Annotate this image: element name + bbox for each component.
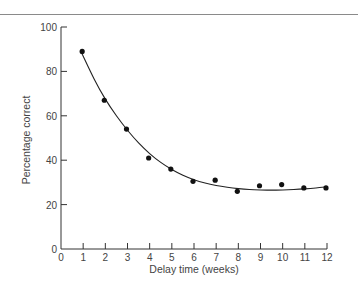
x-tick-label: 5 xyxy=(169,252,175,263)
x-tick-label: 12 xyxy=(321,252,333,263)
data-points xyxy=(80,49,329,194)
forgetting-curve-chart: 0123456789101112 020406080100 Delay time… xyxy=(0,0,361,290)
x-tick-label: 7 xyxy=(213,252,219,263)
y-tick-label: 100 xyxy=(40,22,57,33)
x-tick-label: 3 xyxy=(125,252,131,263)
data-point xyxy=(257,183,262,188)
data-point xyxy=(301,185,306,190)
fitted-curve xyxy=(81,51,327,190)
y-tick-label: 20 xyxy=(46,200,58,211)
data-point xyxy=(323,185,328,190)
axes xyxy=(61,27,327,249)
data-point xyxy=(124,127,129,132)
y-axis-ticks: 020406080100 xyxy=(40,22,67,255)
data-point xyxy=(168,166,173,171)
x-axis-ticks: 0123456789101112 xyxy=(58,243,333,263)
y-tick-label: 40 xyxy=(46,155,58,166)
x-tick-label: 2 xyxy=(103,252,109,263)
data-point xyxy=(279,182,284,187)
x-tick-label: 1 xyxy=(80,252,86,263)
data-point xyxy=(146,155,151,160)
data-point xyxy=(213,178,218,183)
data-point xyxy=(80,49,85,54)
x-axis-label: Delay time (weeks) xyxy=(149,263,238,275)
data-point xyxy=(235,189,240,194)
x-tick-label: 11 xyxy=(300,252,311,263)
y-tick-label: 0 xyxy=(51,244,57,255)
x-tick-label: 8 xyxy=(236,252,242,263)
data-point xyxy=(102,98,107,103)
x-tick-label: 6 xyxy=(191,252,197,263)
x-tick-label: 0 xyxy=(58,252,64,263)
data-point xyxy=(190,179,195,184)
y-axis-label: Percentage correct xyxy=(20,96,32,185)
y-tick-label: 80 xyxy=(46,66,58,77)
y-tick-label: 60 xyxy=(46,111,58,122)
x-tick-label: 9 xyxy=(258,252,264,263)
x-tick-label: 4 xyxy=(147,252,153,263)
x-tick-label: 10 xyxy=(277,252,289,263)
